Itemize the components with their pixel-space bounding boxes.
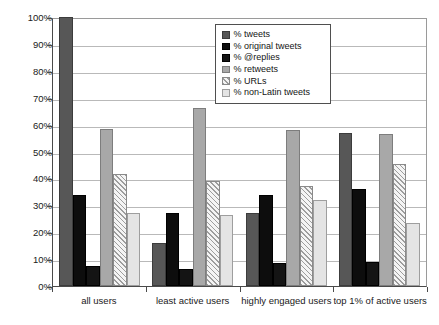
x-axis-label: least active users [146,295,240,307]
bar [100,129,114,286]
x-axis-tick-mark [52,287,53,292]
swatch-hatched-icon [222,77,230,85]
swatch-mid-gray-icon [222,66,230,74]
bar [152,243,166,286]
legend-label: % non-Latin tweets [234,88,311,97]
bar [193,108,207,286]
bar [406,223,420,286]
bar [286,130,300,286]
legend-label: % URLs [234,77,267,86]
legend-item: % tweets [222,29,325,41]
swatch-light-gray-icon [222,89,230,97]
swatch-black-icon [222,54,230,62]
legend-label: % original tweets [234,42,302,51]
bar [300,186,314,286]
bar-group [53,19,146,286]
bar [206,181,220,286]
y-axis-tick-label: 50% [6,148,52,158]
x-axis-label: top 1% of active users [333,295,427,307]
y-axis-tick-label: 0% [6,282,52,292]
legend-item: % @replies [222,52,325,64]
bar [127,213,141,286]
bar [246,213,260,286]
x-axis-labels: all usersleast active usershighly engage… [52,295,427,307]
y-axis-tick-label: 80% [6,67,52,77]
bar-group [333,19,426,286]
y-axis: 100%90%80%70%60%50%40%30%20%10%0% [0,0,52,325]
swatch-black-icon [222,43,230,51]
y-axis-tick-label: 40% [6,174,52,184]
x-axis-tick-mark [333,287,334,292]
legend-item: % original tweets [222,41,325,53]
legend-label: % retweets [234,65,279,74]
bar [73,195,87,286]
bar [179,269,193,286]
legend-item: % non-Latin tweets [222,87,325,99]
bar [59,17,73,286]
bar [393,164,407,286]
bar [273,263,287,286]
bar-chart: 100%90%80%70%60%50%40%30%20%10%0% all us… [0,0,439,325]
bar [379,134,393,286]
legend-label: % @replies [234,53,280,62]
y-axis-tick-label: 60% [6,121,52,131]
bar [339,133,353,286]
chart-legend: % tweets% original tweets% @replies% ret… [215,24,331,104]
legend-label: % tweets [234,30,271,39]
y-axis-tick-label: 10% [6,255,52,265]
bar [352,189,366,286]
x-axis-ticks [52,287,427,293]
legend-item: % URLs [222,75,325,87]
bar [166,213,180,286]
x-axis-tick-mark [146,287,147,292]
bar [113,174,127,286]
y-axis-tick-label: 100% [6,13,52,23]
bar [86,266,100,286]
x-axis-label: all users [52,295,146,307]
y-axis-tick-label: 90% [6,40,52,50]
y-axis-tick-label: 20% [6,228,52,238]
bar [313,200,327,286]
bar [259,195,273,286]
x-axis-tick-mark [427,287,428,292]
legend-item: % retweets [222,64,325,76]
bar [220,215,234,286]
swatch-dark-gray-icon [222,31,230,39]
bar [366,262,380,286]
x-axis-tick-mark [240,287,241,292]
x-axis-label: highly engaged users [240,295,334,307]
y-axis-tick-label: 30% [6,201,52,211]
y-axis-tick-label: 70% [6,94,52,104]
